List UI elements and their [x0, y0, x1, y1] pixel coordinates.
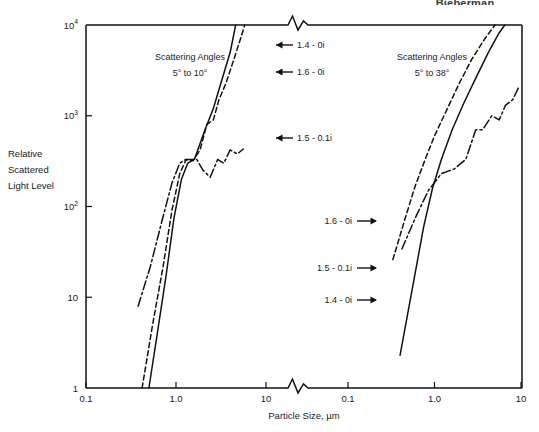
annotation-1-5-0-1i: 1.5 - 0.1i [276, 133, 332, 143]
axis-ticks [86, 116, 521, 388]
panel-caption-right: Scattering Angles [397, 52, 468, 62]
axis-tick-labels: 1101021031040.11.0100.11.010 [64, 18, 527, 404]
y-axis-title-line: Light Level [8, 180, 54, 191]
annotation-label: 1.4 - 0i [297, 40, 325, 50]
annotation-label: 1.6 - 0i [324, 216, 352, 226]
scattering-chart: 1101021031040.11.0100.11.010 Scattering … [0, 0, 539, 432]
panel-caption-right: 5° to 38° [415, 68, 450, 78]
annotation-label: 1.4 - 0i [324, 295, 352, 305]
annotation-1-4-0i: 1.4 - 0i [276, 40, 325, 50]
y-tick-label: 10 [67, 292, 78, 303]
y-tick-label: 102 [64, 200, 79, 213]
x-tick-label: 0.1 [341, 393, 354, 404]
y-tick-label: 103 [64, 109, 79, 122]
annotation-1-5-0-1i: 1.5 - 0.1i [317, 263, 377, 273]
y-tick-label: 104 [64, 18, 79, 31]
annotation-1-6-0i: 1.6 - 0i [324, 216, 377, 226]
annotation-1-4-0i: 1.4 - 0i [324, 295, 377, 305]
data-curves [138, 25, 519, 388]
x-tick-label: 1.0 [169, 393, 182, 404]
curve-left-1-4-0i [149, 25, 236, 388]
panel-caption-left: 5° to 10° [173, 68, 208, 78]
axis-titles: Particle Size, µmRelativeScatteredLight … [8, 148, 340, 421]
y-axis-title-line: Scattered [8, 164, 49, 175]
annotation-label: 1.6 - 0i [297, 67, 325, 77]
annotation-label: 1.5 - 0.1i [297, 133, 332, 143]
curve-left-1-5-0-1i [138, 149, 243, 306]
x-tick-label: 10 [261, 393, 272, 404]
panel-caption-left: Scattering Angles [155, 52, 226, 62]
x-tick-label: 0.1 [79, 393, 92, 404]
x-axis-title: Particle Size, µm [268, 410, 340, 421]
x-tick-label: 1.0 [428, 393, 441, 404]
y-tick-label: 1 [73, 383, 78, 394]
annotation-1-6-0i: 1.6 - 0i [276, 67, 325, 77]
y-axis-title-line: Relative [8, 148, 42, 159]
x-tick-label: 10 [516, 393, 527, 404]
annotation-label: 1.5 - 0.1i [317, 263, 352, 273]
